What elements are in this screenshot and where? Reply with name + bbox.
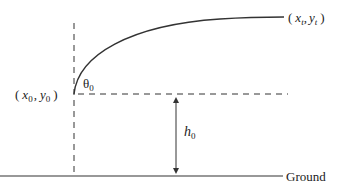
start-point-label: (x0,y0) bbox=[15, 87, 58, 104]
launch-angle-label: θ0 bbox=[83, 76, 94, 93]
ground-label: Ground bbox=[286, 169, 326, 184]
height-label: h0 bbox=[184, 124, 196, 141]
end-point-label: (xt,yt) bbox=[288, 10, 325, 27]
trajectory-curve bbox=[74, 17, 284, 94]
trajectory-diagram: (x0,y0) (xt,yt) θ0 h0 Ground bbox=[0, 0, 340, 188]
